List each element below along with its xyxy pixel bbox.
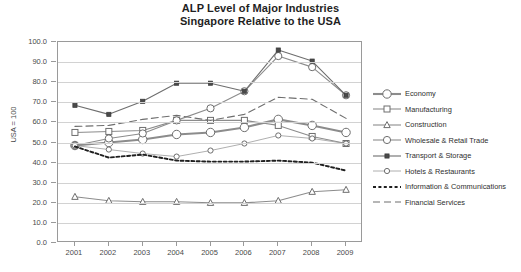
x-axis-tick-label: 2004 [167, 248, 184, 257]
legend-symbol-construction-icon [372, 119, 402, 131]
legend-label: Wholesale & Retail Trade [405, 136, 488, 145]
y-axis: 0.010.020.030.040.050.060.070.080.090.01… [0, 41, 55, 242]
y-axis-tick-label: 90.0 [32, 57, 47, 66]
plot-area [57, 41, 362, 242]
data-point [105, 135, 112, 142]
data-point [139, 130, 146, 137]
legend-item-construction[interactable]: Construction [372, 117, 520, 133]
y-axis-tickmark [51, 182, 56, 183]
y-axis-tickmark [51, 242, 56, 243]
data-point [72, 129, 78, 135]
y-axis-tickmark [51, 41, 56, 42]
legend-label: Construction [405, 120, 447, 129]
data-point [106, 128, 112, 134]
gridline [58, 122, 361, 123]
data-point [207, 105, 214, 112]
legend-item-financial-services[interactable]: Financial Services [372, 195, 520, 211]
chart-legend: EconomyManufacturingConstructionWholesal… [372, 86, 520, 210]
y-axis-tickmark [51, 101, 56, 102]
y-axis-tickmark [51, 142, 56, 143]
y-axis-tick-label: 60.0 [32, 117, 47, 126]
gridline [58, 62, 361, 63]
x-axis-tick-label: 2009 [337, 248, 354, 257]
legend-symbol-hotels-restaurants-icon [372, 165, 402, 177]
legend-item-manufacturing[interactable]: Manufacturing [372, 102, 520, 118]
data-point [276, 48, 280, 52]
x-axis-tick-label: 2001 [66, 248, 83, 257]
data-point [242, 89, 246, 93]
y-axis-tick-label: 50.0 [32, 137, 47, 146]
legend-item-hotels-restaurants[interactable]: Hotels & Restaurants [372, 164, 520, 180]
legend-label: Transport & Storage [405, 151, 471, 160]
x-axis-tick-label: 2006 [235, 248, 252, 257]
x-axis-tick-label: 2003 [133, 248, 150, 257]
data-point [208, 148, 213, 153]
legend-item-transport-storage[interactable]: Transport & Storage [372, 148, 520, 164]
legend-label: Hotels & Restaurants [405, 167, 475, 176]
y-axis-tickmark [51, 61, 56, 62]
legend-symbol-manufacturing-icon [372, 103, 402, 115]
gridline [58, 102, 361, 103]
y-axis-tick-label: 20.0 [32, 197, 47, 206]
legend-item-wholesale-retail-trade[interactable]: Wholesale & Retail Trade [372, 133, 520, 149]
gridline [58, 82, 361, 83]
gridline [58, 203, 361, 204]
data-point [106, 147, 111, 152]
x-axis: 200120022003200420052006200720082009 [57, 245, 362, 263]
data-point [72, 193, 78, 199]
x-axis-tick-label: 2002 [99, 248, 116, 257]
y-axis-tickmark [51, 81, 56, 82]
legend-item-information-communications[interactable]: Information & Communications [372, 179, 520, 195]
legend-label: Manufacturing [405, 105, 452, 114]
chart-title-line1: ALP Level of Major Industries [0, 2, 521, 15]
legend-symbol-information-communications-icon [372, 181, 402, 193]
chart-container: ALP Level of Major Industries Singapore … [0, 0, 521, 272]
x-axis-tick-label: 2008 [303, 248, 320, 257]
legend-label: Economy [405, 89, 436, 98]
legend-symbol-financial-services-icon [372, 196, 402, 208]
legend-symbol-economy-icon [372, 88, 402, 100]
data-point [342, 128, 350, 136]
data-point [310, 136, 315, 141]
y-axis-tickmark [51, 222, 56, 223]
data-point [276, 133, 281, 138]
data-point [240, 123, 248, 131]
legend-symbol-wholesale-retail-trade-icon [372, 134, 402, 146]
y-axis-tickmark [51, 202, 56, 203]
data-point [174, 154, 179, 159]
data-point [344, 93, 348, 97]
legend-item-economy[interactable]: Economy [372, 86, 520, 102]
gridline [58, 183, 361, 184]
data-point [172, 130, 180, 138]
legend-label: Information & Communications [405, 182, 506, 191]
legend-label: Financial Services [405, 198, 465, 207]
y-axis-tick-label: 30.0 [32, 177, 47, 186]
gridline [58, 143, 361, 144]
y-axis-tickmark [51, 162, 56, 163]
data-point [206, 128, 214, 136]
chart-title: ALP Level of Major Industries Singapore … [0, 2, 521, 28]
y-axis-tick-label: 70.0 [32, 97, 47, 106]
y-axis-tickmark [51, 121, 56, 122]
gridline [58, 223, 361, 224]
y-axis-tick-label: 10.0 [32, 217, 47, 226]
y-axis-tick-label: 80.0 [32, 77, 47, 86]
legend-symbol-transport-storage-icon [372, 150, 402, 162]
data-point [107, 112, 111, 116]
x-axis-tick-label: 2005 [201, 248, 218, 257]
chart-subtitle: Singapore Relative to the USA [0, 15, 521, 28]
data-point [309, 64, 316, 71]
y-axis-tick-label: 0.0 [37, 238, 47, 247]
y-axis-tick-label: 100.0 [28, 37, 47, 46]
y-axis-tick-label: 40.0 [32, 157, 47, 166]
data-point [73, 103, 77, 107]
gridline [58, 163, 361, 164]
x-axis-tick-label: 2007 [269, 248, 286, 257]
